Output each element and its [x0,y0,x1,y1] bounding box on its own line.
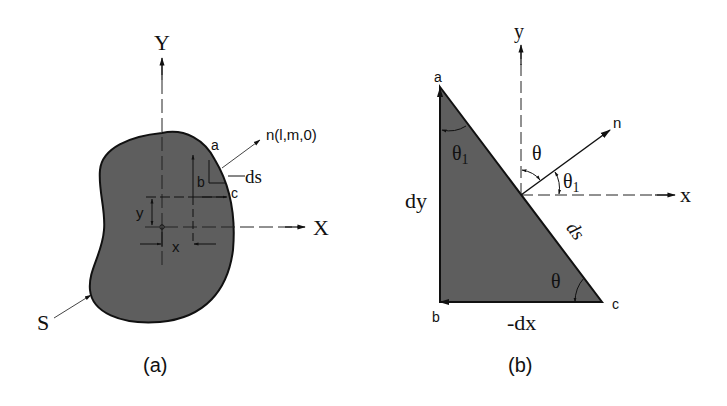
normal-label-a: n(l,m,0) [266,126,317,143]
theta-bottom-label: θ [551,270,561,292]
boundary-label-s: S [37,310,49,335]
ds-label-a: ds [245,166,262,187]
point-a-label-b: a [434,69,442,85]
normal-label-b: n [613,114,621,131]
figure-b: y x n θ θ1 θ1 θ a b c dy -dx ds (b) [405,20,691,376]
x-axis-label-b: x [680,182,691,207]
dy-label: dy [405,188,427,213]
point-b-label-b: b [432,309,440,325]
point-c-label-b: c [612,296,619,312]
caption-a: (a) [143,354,167,376]
point-b-label-a: b [197,174,205,190]
point-c-label-a: c [231,185,238,201]
y-axis-label-b: y [514,20,524,43]
normal-vector-a [222,140,260,168]
dim-y-label-a: y [136,204,144,221]
theta1-right-label: θ1 [563,170,580,195]
x-axis-label-a: X [313,215,329,240]
point-a-label-a: a [211,137,219,153]
dx-label: -dx [507,310,536,335]
y-axis-label-a: Y [154,30,170,55]
ds-label-b: ds [562,218,589,244]
diagram-canvas: Y X a b c n(l,m,0) ds y x S (a) [0,0,727,406]
caption-b: (b) [508,354,532,376]
dim-x-label-a: x [172,238,180,255]
theta-top-label: θ [532,142,542,164]
figure-a: Y X a b c n(l,m,0) ds y x S (a) [37,30,329,376]
